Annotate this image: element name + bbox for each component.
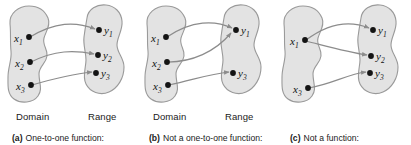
panel-b-caption-text: Not a one-to-one function: bbox=[163, 133, 262, 143]
arrow-x3-y3 bbox=[309, 72, 366, 88]
point-y3 bbox=[367, 70, 373, 76]
panel-b-tag: (b) bbox=[149, 133, 160, 143]
panel-c-diagram: x1 x3 y1 y2 y3 bbox=[274, 0, 411, 112]
point-y1 bbox=[370, 27, 376, 33]
range-label: Range bbox=[225, 111, 254, 122]
range-blob bbox=[221, 5, 261, 94]
point-x2 bbox=[27, 59, 33, 65]
point-x1 bbox=[26, 34, 32, 40]
domain-blob bbox=[145, 6, 186, 102]
arrow-x3-y3 bbox=[169, 72, 229, 85]
point-x2 bbox=[164, 59, 170, 65]
point-x1 bbox=[302, 37, 308, 43]
function-mapping-figure: x1 x2 x3 y1 y2 y3 Domain Range (a)One-to… bbox=[0, 0, 411, 145]
domain-label: Domain bbox=[16, 111, 49, 122]
panel-b-diagram: x1 x2 x3 y1 y3 bbox=[137, 0, 274, 112]
point-x3 bbox=[165, 82, 171, 88]
point-x3 bbox=[28, 82, 34, 88]
domain-blob bbox=[8, 6, 49, 102]
panel-c-tag: (c) bbox=[290, 133, 301, 143]
panel-a-one-to-one-function: x1 x2 x3 y1 y2 y3 Domain Range (a)One-to… bbox=[0, 0, 137, 145]
point-y2 bbox=[95, 52, 101, 58]
domain-label: Domain bbox=[153, 111, 186, 122]
panel-a-caption: (a)One-to-one function: bbox=[12, 133, 104, 144]
point-y1 bbox=[96, 27, 102, 33]
panel-b-caption: (b)Not a one-to-one function: bbox=[149, 133, 262, 144]
panel-c-not-a-function: x1 x3 y1 y2 y3 (c)Not a function: bbox=[274, 0, 411, 145]
arrow-x3-y3 bbox=[32, 72, 92, 85]
point-x1 bbox=[163, 34, 169, 40]
point-y3 bbox=[93, 70, 99, 76]
range-label: Range bbox=[88, 111, 117, 122]
point-x3 bbox=[305, 85, 311, 91]
panel-c-caption: (c)Not a function: bbox=[290, 133, 359, 144]
panel-a-diagram: x1 x2 x3 y1 y2 y3 bbox=[0, 0, 137, 112]
panel-c-caption-text: Not a function: bbox=[304, 133, 359, 143]
point-y1 bbox=[233, 27, 239, 33]
panel-a-caption-text: One-to-one function: bbox=[26, 133, 104, 143]
point-y2 bbox=[368, 53, 374, 59]
panel-a-tag: (a) bbox=[12, 133, 23, 143]
panel-b-not-one-to-one-function: x1 x2 x3 y1 y3 Domain Range (b)Not a one… bbox=[137, 0, 274, 145]
domain-blob bbox=[282, 6, 323, 102]
point-y3 bbox=[230, 70, 236, 76]
